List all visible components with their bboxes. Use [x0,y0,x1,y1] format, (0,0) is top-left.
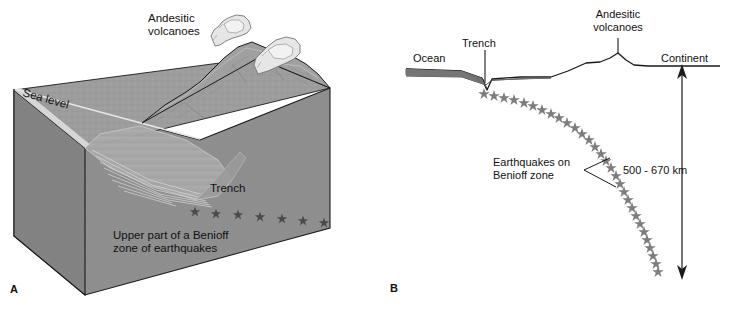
label-trench-b: Trench [462,37,496,49]
label-continent-b: Continent [661,52,708,64]
label-trench-a: Trench [210,182,245,194]
figure-subduction-zone: Sea level Andesitic volcanoes Trench Upp… [0,0,731,317]
label-benioff-a-line1: Upper part of a Benioff [113,229,229,241]
label-benioff-a-line2: zone of earthquakes [113,242,217,254]
label-earthquakes-b-line2: Benioff zone [493,169,554,181]
panel-letter-b: B [390,282,398,294]
label-andesitic-volcanoes-a-line1: Andesitic [148,12,195,24]
label-andesitic-volcanoes-b-line1: Andesitic [596,8,641,20]
label-andesitic-volcanoes-b-line2: volcanoes [593,21,643,33]
label-andesitic-volcanoes-a-line2: volcanoes [148,25,200,37]
panel-letter-a: A [10,283,18,295]
label-earthquakes-b-line1: Earthquakes on [493,156,570,168]
label-depth-range-b: 500 - 670 km [623,164,687,176]
label-ocean-b: Ocean [413,52,445,64]
